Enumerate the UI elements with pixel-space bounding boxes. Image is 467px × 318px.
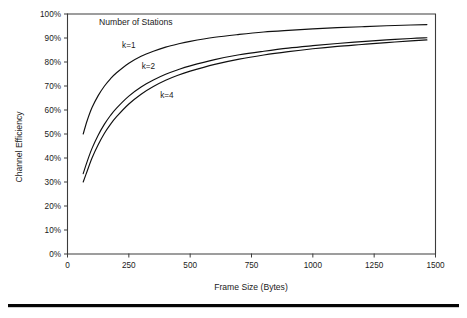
series-label-k4: k=4 — [160, 91, 174, 100]
x-tick-label: 0 — [65, 261, 70, 270]
y-tick-label: 70% — [45, 82, 61, 91]
axes — [68, 14, 436, 254]
x-tick-label: 750 — [245, 261, 259, 270]
x-tick-label: 500 — [183, 261, 197, 270]
y-tick-label: 20% — [45, 202, 61, 211]
x-tick-label: 1000 — [304, 261, 323, 270]
y-axis-title: Channel Efficiency — [14, 111, 24, 183]
plot-frame — [68, 14, 436, 254]
x-axis-ticks: 0250500750100012501500 — [65, 254, 445, 271]
y-tick-label: 0% — [49, 250, 61, 259]
y-tick-label: 60% — [45, 106, 61, 115]
series-label-k1: k=1 — [122, 41, 136, 50]
y-axis-ticks: 0%10%20%30%40%50%60%70%80%90%100% — [40, 10, 68, 259]
y-tick-label: 40% — [45, 154, 61, 163]
y-tick-label: 100% — [40, 10, 61, 19]
curve-k2 — [83, 38, 427, 174]
channel-efficiency-line-chart: 0%10%20%30%40%50%60%70%80%90%100% 025050… — [0, 0, 467, 318]
annotation-title: Number of Stations — [99, 17, 173, 27]
y-tick-label: 90% — [45, 34, 61, 43]
horizontal-rule — [8, 304, 459, 307]
series-label-k2: k=2 — [142, 62, 156, 71]
x-tick-label: 1250 — [365, 261, 384, 270]
x-tick-label: 250 — [122, 261, 136, 270]
y-tick-label: 10% — [45, 226, 61, 235]
x-axis-title: Frame Size (Bytes) — [214, 282, 288, 292]
y-tick-label: 80% — [45, 58, 61, 67]
y-tick-label: 50% — [45, 130, 61, 139]
series-inline-labels: k=1k=2k=4 — [122, 41, 174, 100]
y-tick-label: 30% — [45, 178, 61, 187]
curve-k4 — [83, 40, 427, 182]
chart-figure: 0%10%20%30%40%50%60%70%80%90%100% 025050… — [0, 0, 467, 318]
x-tick-label: 1500 — [426, 261, 445, 270]
